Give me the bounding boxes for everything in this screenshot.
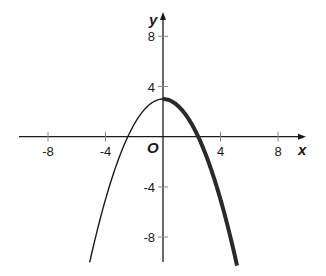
x-tick-label: 4 [217, 144, 224, 159]
x-axis-arrow-icon [298, 134, 306, 140]
origin-label: O [147, 139, 159, 156]
x-tick-label: 8 [274, 144, 281, 159]
axes [19, 12, 306, 262]
x-tick-label: -4 [100, 144, 112, 159]
y-tick-label: 4 [148, 80, 155, 95]
parabola-highlighted-segment [163, 99, 237, 265]
y-tick-label: -4 [143, 180, 155, 195]
x-tick-label: -8 [42, 144, 54, 159]
x-axis-label: x [297, 141, 307, 158]
y-axis-arrow-icon [160, 12, 166, 20]
y-tick-label: 8 [148, 29, 155, 44]
y-tick-label: -8 [143, 230, 155, 245]
y-axis-label: y [148, 11, 158, 28]
parabola-chart: -8-44884-4-8 x y O [0, 0, 326, 276]
